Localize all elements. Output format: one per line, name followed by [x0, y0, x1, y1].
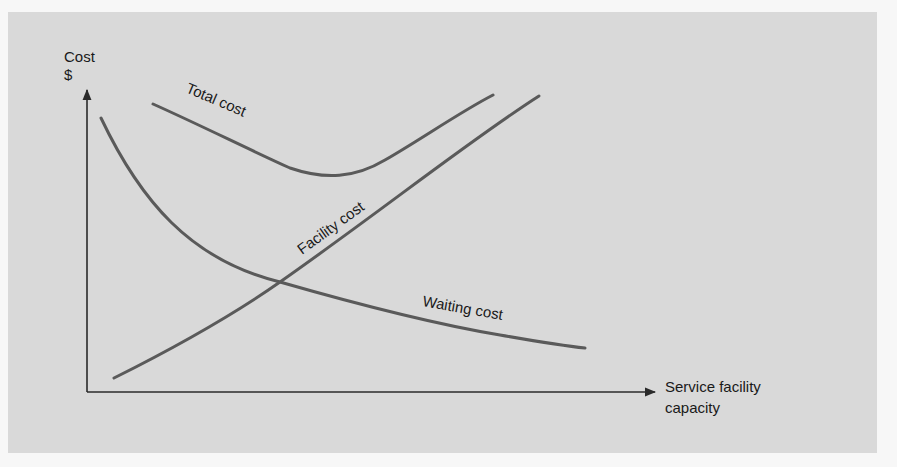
y-axis-label-cost: Cost [64, 48, 96, 65]
waiting-cost-curve [101, 118, 585, 348]
x-axis-label-line1: Service facility [665, 378, 761, 395]
total-cost-label: Total cost [184, 79, 250, 120]
y-axis-label-dollar: $ [64, 66, 73, 83]
x-axis-label-line2: capacity [665, 399, 721, 416]
waiting-cost-label: Waiting cost [421, 292, 505, 323]
cost-capacity-chart: Cost $ Service facility capacity Total c… [0, 0, 897, 467]
